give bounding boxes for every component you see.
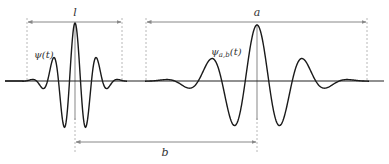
mother-wavelet-curve: [5, 23, 127, 127]
daughter-wavelet-label: ψa,b(t): [211, 46, 242, 59]
l-label: l: [73, 6, 77, 19]
center-lines: [75, 24, 257, 120]
daughter-arg: (t): [230, 46, 242, 57]
daughter-subscript: a,b: [219, 51, 230, 59]
mother-wavelet-label: ψ(t): [34, 49, 54, 60]
b-label: b: [161, 146, 168, 159]
wavelet-diagram: l a b ψ(t) ψa,b(t): [0, 0, 389, 164]
daughter-psi: ψ: [211, 46, 219, 57]
a-label: a: [254, 6, 261, 19]
